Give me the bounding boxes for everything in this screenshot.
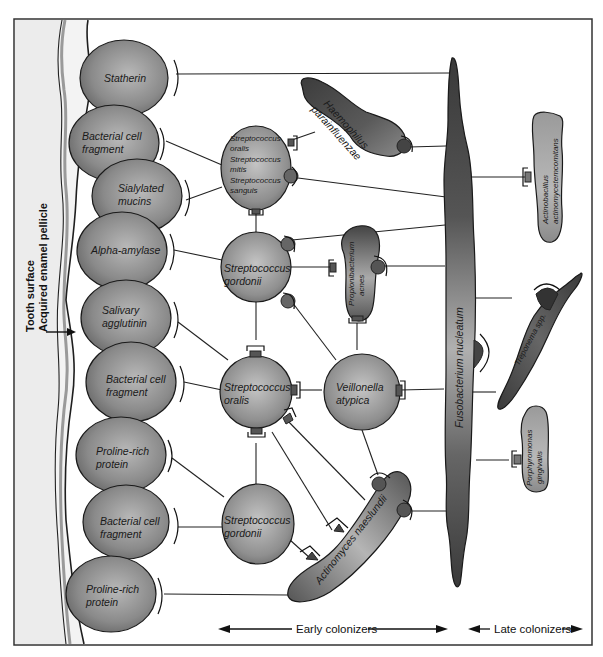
svg-text:acnes: acnes (357, 275, 366, 296)
svg-text:atypica: atypica (336, 394, 369, 406)
svg-text:fragment: fragment (82, 143, 125, 155)
bacterium-streptococcus-gordonii-2: Streptococcus gordonii (222, 484, 294, 564)
svg-text:Salivary: Salivary (102, 304, 140, 316)
svg-text:Propionibacterium: Propionibacterium (347, 241, 356, 306)
svg-text:Streptococcus: Streptococcus (224, 262, 291, 274)
svg-text:Porphyromonas: Porphyromonas (525, 430, 534, 486)
svg-text:Early colonizers: Early colonizers (296, 623, 377, 635)
svg-text:gordonii: gordonii (224, 527, 262, 539)
svg-text:Fusobacterium nucleatum: Fusobacterium nucleatum (453, 307, 465, 428)
svg-text:fragment: fragment (106, 386, 149, 398)
svg-text:Bacterial cell: Bacterial cell (106, 373, 166, 385)
svg-text:Acquired enamel pellicle: Acquired enamel pellicle (37, 203, 49, 332)
svg-text:Tooth surface: Tooth surface (24, 260, 36, 332)
svg-text:oralis: oralis (230, 144, 249, 153)
svg-text:mitis: mitis (230, 165, 246, 174)
svg-text:sanguis: sanguis (230, 186, 258, 195)
svg-text:Statherin: Statherin (104, 72, 146, 84)
svg-text:agglutinin: agglutinin (102, 317, 147, 329)
svg-text:Streptococcus: Streptococcus (230, 155, 281, 164)
svg-text:Actinobacillus: Actinobacillus (541, 175, 550, 225)
svg-text:Streptococcus: Streptococcus (224, 514, 291, 526)
svg-text:mucins: mucins (118, 195, 152, 207)
svg-text:oralis: oralis (224, 394, 250, 406)
svg-text:protein: protein (85, 596, 118, 608)
svg-text:Alpha-amylase: Alpha-amylase (90, 244, 161, 256)
svg-text:Bacterial cell: Bacterial cell (82, 130, 142, 142)
svg-text:Proline-rich: Proline-rich (86, 583, 139, 595)
svg-text:gingivalis: gingivalis (535, 451, 544, 484)
svg-text:Streptococcus: Streptococcus (230, 134, 281, 143)
svg-text:Sialylated: Sialylated (118, 182, 165, 194)
svg-text:protein: protein (95, 458, 128, 470)
svg-text:Bacterial cell: Bacterial cell (100, 515, 160, 527)
svg-text:Late colonizers: Late colonizers (494, 623, 572, 635)
svg-text:Veillonella: Veillonella (336, 381, 384, 393)
svg-text:Proline-rich: Proline-rich (96, 445, 149, 457)
svg-text:Streptococcus: Streptococcus (230, 176, 281, 185)
svg-text:Streptococcus: Streptococcus (224, 381, 291, 393)
svg-text:gordonii: gordonii (224, 275, 262, 287)
svg-text:fragment: fragment (100, 528, 143, 540)
oral-biofilm-colonization-diagram: Tooth surface Acquired enamel pellicle (0, 0, 603, 657)
svg-text:actinomycetemcomitans: actinomycetemcomitans (551, 138, 560, 224)
